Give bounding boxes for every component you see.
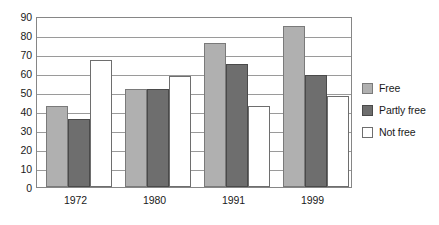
bar-1972-not-free	[90, 60, 112, 187]
x-axis-tick-label: 1999	[273, 195, 352, 206]
legend-item-label: Partly free	[379, 105, 426, 116]
legend-swatch-icon	[362, 105, 373, 116]
y-axis-tick-label: 0	[2, 183, 32, 193]
legend-item-notfree: Not free	[362, 124, 438, 141]
y-axis-tick-label: 60	[2, 69, 32, 79]
y-axis-tick-label: 90	[2, 12, 32, 22]
bar-1980-not-free	[169, 76, 191, 187]
bar-1999-free	[283, 26, 305, 187]
y-axis-tick-label: 50	[2, 88, 32, 98]
legend: FreePartly freeNot free	[362, 80, 438, 146]
plot-area	[36, 17, 352, 188]
legend-item-label: Free	[379, 83, 400, 94]
legend-swatch-icon	[362, 127, 373, 138]
bar-1991-not-free	[248, 106, 270, 187]
y-axis-tick-label: 80	[2, 31, 32, 41]
y-axis-tick-label: 40	[2, 107, 32, 117]
bar-chart: 9080706050403020100 1972198019911999 Fre…	[0, 0, 439, 225]
x-axis-tick-label: 1972	[36, 195, 115, 206]
bars-layer	[37, 18, 351, 187]
bar-1980-partly-free	[147, 89, 169, 187]
bar-1972-free	[46, 106, 68, 187]
y-axis: 9080706050403020100	[0, 0, 36, 225]
y-axis-tick-label: 10	[2, 164, 32, 174]
y-axis-tick-label: 20	[2, 145, 32, 155]
bar-1999-partly-free	[305, 75, 327, 187]
legend-item-partly: Partly free	[362, 102, 438, 119]
bar-1980-free	[125, 89, 147, 187]
x-axis-tick-label: 1991	[194, 195, 273, 206]
legend-item-label: Not free	[379, 127, 416, 138]
bar-1999-not-free	[327, 96, 349, 187]
bar-1991-partly-free	[226, 64, 248, 188]
y-axis-tick-label: 30	[2, 126, 32, 136]
x-axis: 1972198019911999	[36, 190, 352, 212]
legend-item-free: Free	[362, 80, 438, 97]
legend-swatch-icon	[362, 83, 373, 94]
bar-1991-free	[204, 43, 226, 187]
x-axis-tick-label: 1980	[115, 195, 194, 206]
y-axis-tick-label: 70	[2, 50, 32, 60]
bar-1972-partly-free	[68, 119, 90, 187]
